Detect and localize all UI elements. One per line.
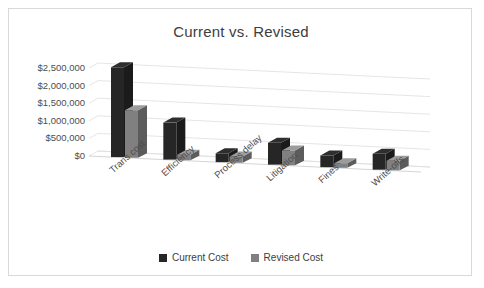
y-axis-tick-label: $1,000,000 xyxy=(9,115,85,126)
legend-label: Revised Cost xyxy=(264,252,323,263)
y-axis-tick-label: $1,500,000 xyxy=(9,97,85,108)
y-axis-tick-label: $500,000 xyxy=(9,132,85,143)
y-axis-tick-label: $2,000,000 xyxy=(9,80,85,91)
square-swatch-icon xyxy=(159,254,167,262)
y-axis-tick-label: $0 xyxy=(9,150,85,161)
legend-label: Current Cost xyxy=(172,252,229,263)
plot-area: $0$500,000$1,000,000$1,500,000$2,000,000… xyxy=(9,9,473,277)
legend-item-revised-cost[interactable]: Revised Cost xyxy=(251,252,323,263)
y-axis-tick-label: $2,500,000 xyxy=(9,62,85,73)
chart-legend: Current Cost Revised Cost xyxy=(9,252,473,263)
chart-frame: Current vs. Revised $0$500,000$1,000,000… xyxy=(8,8,472,276)
square-swatch-icon xyxy=(251,254,259,262)
legend-item-current-cost[interactable]: Current Cost xyxy=(159,252,229,263)
